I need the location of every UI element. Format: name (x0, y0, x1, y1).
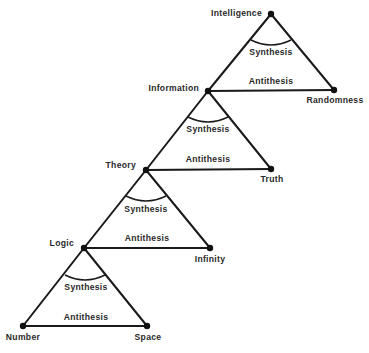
node-theory (143, 167, 149, 173)
node-space (144, 323, 150, 329)
node-label-number: Number (6, 332, 41, 342)
node-truth (268, 166, 274, 172)
node-label-randomness: Randomness (307, 95, 364, 105)
node-label-space: Space (135, 332, 162, 342)
node-number (20, 323, 26, 329)
node-label-intelligence: Intelligence (211, 8, 262, 18)
antithesis-label: Antithesis (64, 312, 109, 322)
triangle-edge-base (146, 169, 271, 170)
diagram-edges (23, 14, 334, 326)
node-label-logic: Logic (50, 238, 74, 248)
node-label-truth: Truth (261, 174, 284, 184)
node-label-information: Information (148, 83, 199, 93)
node-label-infinity: Infinity (195, 254, 226, 264)
antithesis-label: Antithesis (125, 233, 170, 243)
node-logic (81, 245, 87, 251)
synthesis-arc (251, 40, 291, 45)
antithesis-label: Antithesis (186, 154, 231, 164)
synthesis-label: Synthesis (186, 124, 229, 134)
triangle-edge-base (208, 90, 334, 91)
node-label-theory: Theory (106, 160, 136, 170)
node-intelligence (268, 11, 274, 17)
dialectic-diagram: SynthesisAntithesisSynthesisAntithesisSy… (0, 0, 369, 353)
synthesis-arc (188, 117, 228, 122)
synthesis-label: Synthesis (124, 204, 167, 214)
synthesis-arc (126, 196, 166, 201)
antithesis-label: Antithesis (249, 76, 294, 86)
synthesis-label: Synthesis (64, 282, 107, 292)
diagram-labels: SynthesisAntithesisSynthesisAntithesisSy… (6, 8, 364, 342)
synthesis-arc (65, 275, 105, 280)
node-infinity (207, 245, 213, 251)
node-information (205, 88, 211, 94)
node-randomness (331, 87, 337, 93)
synthesis-label: Synthesis (249, 47, 292, 57)
